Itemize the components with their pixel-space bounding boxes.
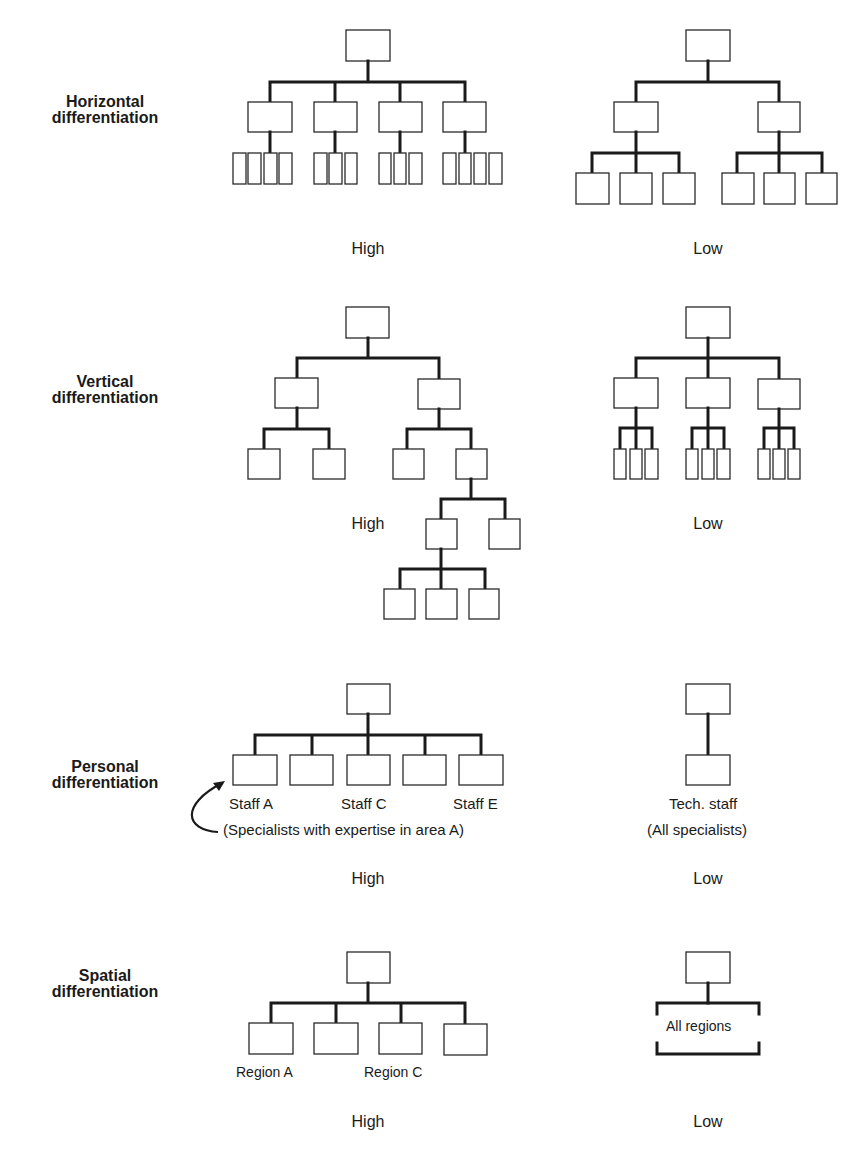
horizontal-high-caption: High bbox=[338, 240, 398, 258]
row-label-line: Vertical bbox=[15, 374, 195, 390]
personal-high-chart bbox=[233, 684, 503, 785]
all-specialists-label: (All specialists) bbox=[647, 821, 747, 838]
horizontal-high-chart bbox=[233, 30, 502, 184]
personal-low-caption: Low bbox=[678, 870, 738, 888]
region-c-label: Region C bbox=[364, 1064, 422, 1080]
row-label-line: differentiation bbox=[15, 775, 195, 791]
curved-arrow-icon bbox=[192, 781, 225, 832]
personal-low-chart bbox=[686, 684, 730, 785]
vertical-high-caption: High bbox=[338, 515, 398, 533]
region-a-label: Region A bbox=[236, 1064, 293, 1080]
row-label-line: differentiation bbox=[15, 110, 195, 126]
staff-c-label: Staff C bbox=[341, 795, 387, 812]
spatial-low-chart bbox=[657, 952, 759, 1054]
row-label-line: differentiation bbox=[15, 984, 195, 1000]
row-label-line: differentiation bbox=[15, 390, 195, 406]
tech-staff-label: Tech. staff bbox=[669, 795, 737, 812]
spatial-low-caption: Low bbox=[678, 1113, 738, 1131]
spatial-high-chart bbox=[249, 952, 487, 1055]
row-label-line: Horizontal bbox=[15, 94, 195, 110]
row-label-line: Spatial bbox=[15, 968, 195, 984]
staff-a-label: Staff A bbox=[229, 795, 273, 812]
vertical-high-chart bbox=[248, 307, 520, 619]
row-label-spatial: Spatial differentiation bbox=[15, 968, 195, 1000]
vertical-low-caption: Low bbox=[678, 515, 738, 533]
personal-high-caption: High bbox=[338, 870, 398, 888]
specialists-note: (Specialists with expertise in area A) bbox=[223, 821, 464, 838]
vertical-low-chart bbox=[614, 307, 800, 479]
row-label-personal: Personal differentiation bbox=[15, 759, 195, 791]
spatial-high-caption: High bbox=[338, 1113, 398, 1131]
row-label-line: Personal bbox=[15, 759, 195, 775]
staff-e-label: Staff E bbox=[453, 795, 498, 812]
horizontal-low-chart bbox=[576, 30, 837, 204]
all-regions-label: All regions bbox=[666, 1018, 731, 1034]
horizontal-low-caption: Low bbox=[678, 240, 738, 258]
row-label-horizontal: Horizontal differentiation bbox=[15, 94, 195, 126]
row-label-vertical: Vertical differentiation bbox=[15, 374, 195, 406]
